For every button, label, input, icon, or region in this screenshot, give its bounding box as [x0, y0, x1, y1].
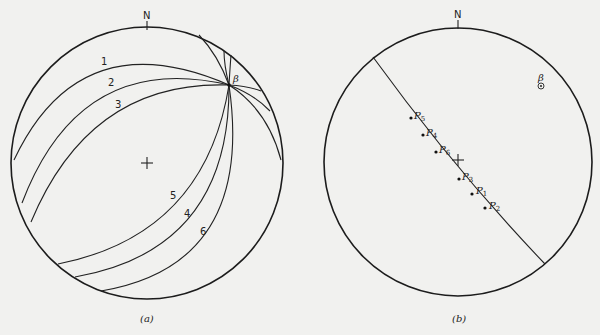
label-circle-3: 1: [101, 56, 107, 67]
arc-beta-rim-6: [229, 85, 281, 160]
label-circle-4: 4: [184, 208, 190, 219]
stereonet-b: N P5 P4 P6 P3 P1 P2: [324, 9, 592, 324]
beta-label-b: β: [537, 72, 544, 83]
great-circle-5: [58, 85, 229, 264]
svg-text:P3: P3: [461, 171, 473, 184]
svg-text:P6: P6: [438, 144, 451, 157]
svg-text:P4: P4: [425, 127, 438, 140]
svg-text:P2: P2: [488, 200, 500, 213]
center-cross-b: [452, 154, 464, 166]
beta-axis-b: β: [537, 72, 544, 89]
label-circle-6: 6: [200, 226, 206, 237]
great-circle-3: [14, 64, 229, 160]
label-circle-2: 3: [115, 99, 121, 110]
arc-beta-rim-3: [229, 55, 231, 85]
north-label-b: N: [454, 9, 461, 20]
label-circle-5: 5: [170, 190, 176, 201]
pole-p6: P6: [434, 144, 450, 157]
great-circle-4: [75, 85, 229, 277]
stereonet-a: N β 1 2 3 5 4 6 (a): [11, 10, 283, 324]
pole-p1: P1: [470, 185, 487, 198]
great-circle-6: [101, 85, 233, 291]
caption-a: (a): [140, 313, 154, 324]
stereonet-figure: N β 1 2 3 5 4 6 (a): [0, 0, 600, 335]
pole-p5: P5: [409, 110, 425, 123]
north-label-a: N: [143, 10, 150, 21]
svg-text:P5: P5: [413, 110, 425, 123]
svg-text:P1: P1: [475, 185, 487, 198]
beta-label-a: β: [232, 73, 239, 84]
great-circle-1: [22, 78, 229, 203]
caption-b: (b): [452, 313, 466, 324]
center-cross-a: [141, 157, 153, 169]
pole-p4: P4: [421, 127, 437, 140]
pole-p2: P2: [483, 200, 500, 213]
label-circle-1: 2: [108, 77, 114, 88]
beta-point-a: [227, 83, 231, 87]
great-circle-2: [31, 85, 229, 222]
pole-p3: P3: [457, 171, 473, 184]
